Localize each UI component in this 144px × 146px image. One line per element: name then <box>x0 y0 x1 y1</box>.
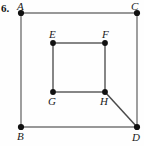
vertex-label-b: B <box>17 131 24 142</box>
inner-square <box>53 43 105 92</box>
vertex-dot-D <box>134 124 140 130</box>
geometry-figure: 6. A C B D E F G H <box>0 0 144 146</box>
vertex-label-c: C <box>131 1 138 12</box>
segment-HD <box>105 92 137 127</box>
vertex-dot-E <box>50 40 56 46</box>
diagram-canvas <box>0 0 144 146</box>
vertex-label-f: F <box>102 29 109 40</box>
vertex-label-g: G <box>48 96 56 107</box>
vertex-label-h: H <box>100 96 108 107</box>
vertex-dot-F <box>102 40 108 46</box>
vertex-label-a: A <box>17 1 24 12</box>
vertex-dots <box>18 10 140 130</box>
vertex-label-e: E <box>49 29 56 40</box>
vertex-label-d: D <box>132 132 140 143</box>
outer-rectangle <box>21 13 137 127</box>
